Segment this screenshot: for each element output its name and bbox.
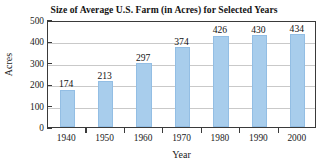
- bar-chart: Size of Average U.S. Farm (in Acres) for…: [0, 0, 328, 168]
- bar-value-label: 174: [59, 78, 73, 89]
- x-tick-label: 1970: [172, 133, 191, 143]
- x-tick-mark: [162, 128, 163, 133]
- bar-value-label: 434: [290, 23, 304, 34]
- x-tick-mark: [278, 128, 279, 133]
- y-tick-mark: [47, 127, 52, 128]
- x-tick-label: 1960: [134, 133, 153, 143]
- x-tick-label: 1990: [249, 133, 268, 143]
- bar-value-label: 374: [174, 36, 188, 47]
- x-tick-label: 1940: [57, 133, 76, 143]
- y-tick-mark: [47, 106, 52, 107]
- x-tick-mark: [201, 128, 202, 133]
- x-tick-label: 2000: [287, 133, 306, 143]
- x-axis-title: Year: [47, 149, 316, 160]
- y-tick-mark: [47, 63, 52, 64]
- y-tick-mark: [47, 42, 52, 43]
- bar-value-label: 430: [251, 24, 265, 35]
- x-tick-label: 1980: [211, 133, 230, 143]
- x-tick-mark: [124, 128, 125, 133]
- bar-value-label: 297: [136, 52, 150, 63]
- y-tick-mark: [47, 20, 52, 21]
- x-tick-mark: [85, 128, 86, 133]
- x-tick-mark: [239, 128, 240, 133]
- x-tick-label: 1950: [95, 133, 114, 143]
- y-tick-mark: [47, 85, 52, 86]
- bar-value-label: 426: [213, 24, 227, 35]
- bar-value-label: 213: [97, 70, 111, 81]
